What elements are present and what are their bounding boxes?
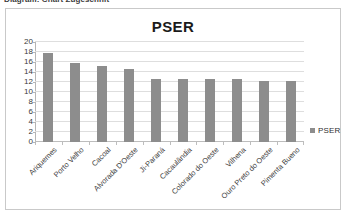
x-axis-tick	[143, 142, 144, 145]
bar	[97, 66, 107, 142]
y-axis-tick	[33, 102, 36, 103]
y-axis-labels: 20181614121086420	[12, 42, 33, 142]
x-axis-category-label: Cacoal	[91, 146, 113, 168]
y-axis-tick	[33, 42, 36, 43]
legend-swatch-pser	[310, 128, 315, 133]
y-axis-tick	[33, 112, 36, 113]
bar	[178, 79, 188, 143]
y-axis-tick-label: 20	[24, 38, 33, 46]
x-axis-category-label: Vilhena	[224, 146, 247, 169]
x-axis-category-labels: AriquemesPorto VelhoCacoalAlvorada D'Oes…	[35, 146, 304, 208]
bar	[286, 81, 296, 142]
chart-frame: PSER 20181614121086420 AriquemesPorto Ve…	[5, 8, 341, 210]
y-axis-tick	[33, 82, 36, 83]
y-axis-tick-label: 10	[24, 88, 33, 96]
x-axis-tick	[223, 142, 224, 145]
y-axis-tick	[33, 132, 36, 133]
y-axis-tick	[33, 72, 36, 73]
bar-series-pser	[35, 42, 304, 142]
y-axis-tick-label: 14	[24, 68, 33, 76]
chart-legend: PSER	[310, 126, 341, 135]
caption-strip: Diagram: Chart Zugeschnit	[0, 0, 346, 7]
legend-label-pser: PSER	[318, 126, 341, 135]
y-axis-tick-label: 16	[24, 58, 33, 66]
bar	[70, 63, 80, 142]
y-axis-tick	[33, 142, 36, 143]
x-axis-tick	[170, 142, 171, 145]
x-axis-tick	[116, 142, 117, 145]
x-axis-tick	[62, 142, 63, 145]
y-axis-tick	[33, 122, 36, 123]
y-axis-tick	[33, 52, 36, 53]
x-axis-tick	[250, 142, 251, 145]
bar	[259, 81, 269, 142]
x-axis-tick	[196, 142, 197, 145]
y-axis-tick	[33, 92, 36, 93]
y-axis-tick-label: 18	[24, 48, 33, 56]
caption-text: Diagram: Chart Zugeschnit	[4, 0, 109, 4]
bar	[43, 53, 53, 142]
plot-area	[35, 42, 304, 142]
x-axis-tick	[277, 142, 278, 145]
bar	[205, 79, 215, 143]
chart-title: PSER	[6, 18, 340, 35]
x-axis-tick	[303, 142, 304, 145]
bar	[151, 79, 161, 143]
y-axis-tick	[33, 62, 36, 63]
x-axis-tick	[89, 142, 90, 145]
bar	[232, 79, 242, 143]
bar	[124, 69, 134, 143]
y-axis-tick-label: 12	[24, 78, 33, 86]
